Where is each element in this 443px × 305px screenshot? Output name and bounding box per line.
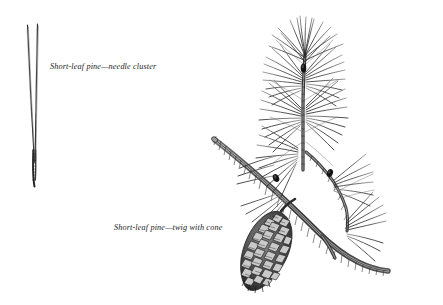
needle-overlay-fine <box>270 40 374 198</box>
pine-cone <box>241 199 295 293</box>
caption-twig-with-cone: Short-leaf pine—twig with cone <box>114 223 222 232</box>
figure-twig-with-cone <box>211 16 388 293</box>
needle-spray-right-tip <box>346 192 386 261</box>
caption-needle-cluster: Short-leaf pine—needle cluster <box>50 62 156 71</box>
figure-needle-cluster <box>27 24 39 187</box>
needle-left <box>27 25 35 162</box>
bud-upper <box>301 63 307 72</box>
needle-spray-mid-right <box>306 78 348 150</box>
twig-branch <box>211 136 388 276</box>
illustration-plate: Short-leaf pine—needle cluster Short-lea… <box>0 0 443 305</box>
pine-illustration-svg <box>0 0 443 305</box>
needle-spray-upper-right <box>306 44 345 106</box>
bud-right <box>326 168 334 178</box>
needle-right <box>35 24 38 162</box>
needle-spray-mid-left <box>259 80 301 152</box>
bud-mid-left <box>272 173 281 183</box>
lateral-branchlet-right <box>306 152 348 231</box>
